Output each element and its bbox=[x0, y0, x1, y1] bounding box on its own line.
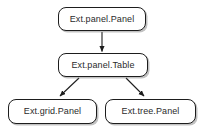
edge-table-to-grid bbox=[60, 78, 79, 96]
node-label: Ext.panel.Table bbox=[71, 61, 134, 70]
node-ext-grid-panel[interactable]: Ext.grid.Panel bbox=[8, 99, 97, 124]
node-label: Ext.tree.Panel bbox=[122, 107, 180, 116]
diagram-canvas: Ext.panel.Panel Ext.panel.Table Ext.grid… bbox=[0, 0, 205, 129]
node-ext-panel-table[interactable]: Ext.panel.Table bbox=[58, 53, 148, 77]
node-ext-panel-panel[interactable]: Ext.panel.Panel bbox=[58, 7, 146, 31]
node-ext-tree-panel[interactable]: Ext.tree.Panel bbox=[105, 99, 196, 124]
edge-table-to-tree bbox=[126, 78, 144, 96]
node-label: Ext.panel.Panel bbox=[70, 15, 135, 24]
node-label: Ext.grid.Panel bbox=[24, 107, 81, 116]
